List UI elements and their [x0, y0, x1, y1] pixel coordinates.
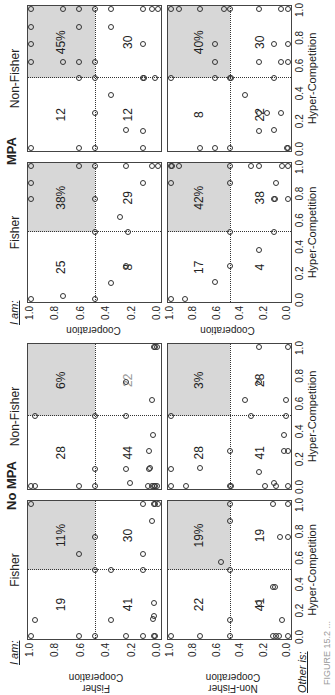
data-point: [140, 145, 146, 151]
data-point: [248, 414, 254, 420]
data-point: [256, 600, 262, 606]
y-tick-label: 0.6: [75, 306, 86, 328]
data-point: [123, 163, 129, 169]
quadrant-count: 38: [253, 191, 267, 204]
data-point: [248, 163, 254, 169]
x-tick-label: 0.0: [294, 480, 305, 494]
data-point: [227, 180, 233, 186]
data-point: [256, 344, 262, 350]
data-point: [60, 293, 66, 299]
data-point: [271, 76, 277, 82]
y-tick-label: 0.4: [100, 306, 111, 328]
data-point: [140, 128, 146, 134]
x-axis-label: Hyper-Competition: [306, 162, 318, 303]
data-point: [279, 617, 285, 623]
x-tick-label: 0.4: [294, 86, 305, 100]
data-point: [197, 145, 203, 151]
quadrant-count: 12: [54, 108, 68, 121]
quadrant-count: 28: [54, 446, 68, 459]
scatter-panel: 19413011%: [27, 500, 162, 640]
x-tick-label: 0.2: [294, 604, 305, 618]
col-title-mpa-fisher: Fisher: [8, 162, 22, 303]
data-point: [92, 196, 98, 202]
data-point: [149, 6, 155, 12]
data-point: [92, 59, 98, 65]
x-tick-label: 0.6: [294, 213, 305, 227]
data-point: [108, 567, 114, 573]
data-point: [227, 230, 233, 236]
x-tick-label: 1.0: [294, 498, 305, 512]
y-tick-label: 0.6: [75, 643, 86, 665]
data-point: [278, 110, 284, 116]
x-tick-label: 0.4: [294, 424, 305, 438]
data-point: [92, 230, 98, 236]
data-point: [183, 483, 189, 489]
data-point: [283, 414, 289, 420]
data-point: [168, 6, 174, 12]
data-point: [92, 145, 98, 151]
y-tick-label: 0.8: [49, 306, 60, 328]
i-am-label-mpa: I am:: [8, 301, 20, 325]
data-point: [228, 76, 234, 82]
quadrant-count: 19: [54, 598, 68, 611]
data-point: [168, 76, 174, 82]
data-point: [256, 247, 262, 253]
data-point: [108, 6, 114, 12]
quadrant-count: 29: [121, 191, 135, 204]
data-point: [140, 180, 146, 186]
data-point: [117, 214, 123, 220]
data-point: [92, 466, 98, 472]
y-tick-label: 0.0: [281, 306, 292, 328]
data-point: [270, 501, 276, 507]
data-point: [28, 145, 34, 151]
data-point: [149, 518, 155, 524]
y-tick-label: 0.4: [234, 643, 245, 665]
scatter-panel: 2841283%: [167, 343, 292, 490]
data-point: [284, 145, 290, 151]
quadrant-count: 22: [192, 598, 206, 611]
data-point: [285, 41, 291, 47]
data-point: [227, 501, 233, 507]
quadrant-count: 19%: [192, 523, 206, 547]
data-point: [256, 163, 262, 169]
data-point: [168, 483, 174, 489]
data-point: [197, 633, 203, 639]
data-point: [32, 617, 38, 623]
data-point: [271, 41, 277, 47]
x-tick-label: 0.4: [294, 240, 305, 254]
data-point: [242, 92, 248, 98]
scatter-panel: 8223040%: [167, 5, 292, 152]
data-point: [32, 483, 38, 489]
data-point: [227, 6, 233, 12]
data-point: [150, 616, 156, 622]
data-point: [227, 567, 233, 573]
y-tick-label: 1.0: [24, 643, 35, 665]
x-tick-label: 0.6: [294, 397, 305, 411]
x-tick-label: 0.2: [294, 266, 305, 280]
data-point: [76, 633, 82, 639]
quadrant-count: 17: [192, 261, 206, 274]
data-point: [92, 534, 98, 540]
data-point: [28, 6, 34, 12]
data-point: [92, 414, 98, 420]
data-point: [92, 483, 98, 489]
data-point: [123, 379, 129, 385]
data-point: [283, 397, 289, 403]
data-point: [168, 466, 174, 472]
quadrant-count: 28: [192, 446, 206, 459]
data-point: [28, 41, 34, 47]
data-point: [264, 110, 270, 116]
data-point: [60, 59, 66, 65]
y-tick-label: 0.2: [126, 643, 137, 665]
data-point: [76, 145, 82, 151]
data-point: [149, 397, 155, 403]
data-point: [256, 128, 262, 134]
data-point: [168, 633, 174, 639]
y-tick-label: 0.8: [187, 643, 198, 665]
figure: No MPA MPA I am: I am: Fisher Non-Fisher…: [0, 0, 335, 695]
y-tick-label: 0.8: [187, 306, 198, 328]
x-tick-label: 1.0: [294, 160, 305, 174]
x-tick-label: 0.8: [294, 524, 305, 538]
data-point: [140, 41, 146, 47]
data-point: [28, 163, 34, 169]
